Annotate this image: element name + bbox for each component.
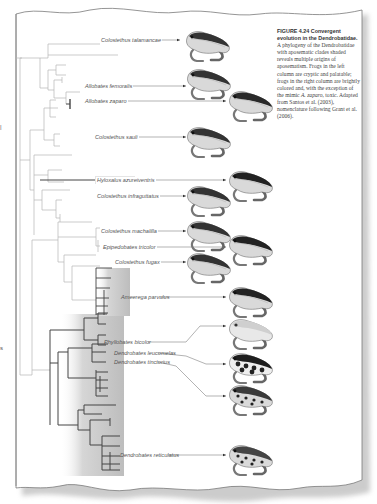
species-label: Colostethus fugax xyxy=(114,259,161,266)
frog-eye xyxy=(234,323,237,326)
margin-mark: s xyxy=(0,345,3,351)
caption-body: A phylogeny of the Dendrobatidae with ap… xyxy=(277,42,360,119)
frog-eye xyxy=(192,226,195,229)
frog-eye xyxy=(234,358,237,361)
frog-spot xyxy=(260,460,263,463)
frog-spot xyxy=(244,456,247,459)
frog-eye xyxy=(234,176,237,179)
frog-spot xyxy=(250,462,253,465)
frog-eye xyxy=(234,292,237,295)
species-label: Colostethus sauli xyxy=(94,134,139,141)
frog-spot xyxy=(252,398,255,401)
frog-spot xyxy=(240,400,243,403)
frog-spot xyxy=(240,368,245,373)
frog-spot xyxy=(236,454,239,457)
frog-eye xyxy=(192,74,195,77)
frog-eye xyxy=(192,191,195,194)
frog-spot xyxy=(244,396,247,399)
frog-eye xyxy=(192,132,195,135)
species-label: Ameerega parvulus xyxy=(120,294,171,301)
frog-spot xyxy=(236,362,241,367)
frog-eye xyxy=(192,258,195,261)
species-label: Dendrobates leucomelas xyxy=(113,350,177,357)
frog-eye xyxy=(191,36,194,39)
species-label: Colostethus machalilla xyxy=(100,228,158,235)
frog-eye xyxy=(234,96,237,99)
species-label: Colostethus talamancae xyxy=(100,37,162,44)
species-label: Epipedobates tricolor xyxy=(102,244,157,251)
species-label: Hyloxalus azureiventris xyxy=(96,177,156,184)
frog-eye xyxy=(234,450,237,453)
frog-spot xyxy=(250,402,253,405)
figure-caption: FIGURE 4.24 Convergent evolution in the … xyxy=(277,28,361,120)
ameerega-clade-shading xyxy=(96,268,130,316)
species-label: Colostethus infraguttatus xyxy=(96,193,160,200)
margin-mark: | xyxy=(0,124,2,130)
species-label: Allobates zaparo xyxy=(84,98,128,105)
species-label: Dendrobates tinctorius xyxy=(113,359,171,366)
frog-spot xyxy=(260,368,265,373)
species-label: Dendrobates reticulatus xyxy=(119,452,180,459)
figure-number: FIGURE 4.24 xyxy=(277,28,309,34)
frog-spot xyxy=(244,364,249,369)
frog-spot xyxy=(240,460,243,463)
frog-spot xyxy=(250,370,255,375)
frog-spot xyxy=(252,458,255,461)
caption-text: A phylogeny of the Dendrobatidae with ap… xyxy=(277,42,360,98)
frog-eye xyxy=(234,390,237,393)
caption-text: A. zaparo xyxy=(301,92,323,98)
frog-spot xyxy=(236,394,239,397)
figure-page: | s Colostethus talamancaeAllobates femo… xyxy=(0,0,377,504)
frog-spot xyxy=(260,400,263,403)
species-label: Allobates femoralis xyxy=(84,83,133,90)
species-label: Phyllobates bicolor xyxy=(103,339,152,346)
frog-eye xyxy=(234,240,237,243)
